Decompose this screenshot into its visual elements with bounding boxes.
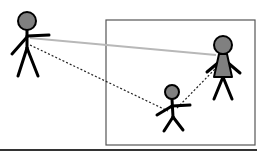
right-woman-leg-1: [223, 77, 232, 99]
right-woman-head: [214, 36, 232, 54]
left-adult-head: [18, 12, 36, 30]
small-child-leg-1: [173, 117, 183, 130]
small-child-arm-1: [172, 105, 190, 106]
connection-lines: [30, 38, 217, 111]
left-adult-leg-1: [27, 48, 38, 76]
small-child-body: [172, 99, 173, 117]
right-woman-leg-0: [214, 77, 223, 99]
figures: [12, 12, 240, 131]
diagram-canvas: [0, 0, 265, 155]
right-woman-figure: [207, 36, 240, 99]
stick-figure-diagram: [0, 0, 265, 155]
small-child-leg-0: [164, 117, 173, 131]
left-adult-leg-0: [18, 48, 27, 76]
small-child-arm-0: [157, 106, 172, 115]
small-child-head: [165, 85, 179, 99]
adult-to-woman-solid-line: [30, 38, 216, 55]
left-adult-arm-1: [27, 35, 49, 36]
adult-to-child-dotted-line: [30, 45, 168, 111]
left-adult-figure: [12, 12, 49, 76]
right-woman-dress: [214, 54, 232, 77]
small-child-figure: [157, 85, 190, 131]
child-to-woman-dotted-line: [177, 67, 217, 108]
